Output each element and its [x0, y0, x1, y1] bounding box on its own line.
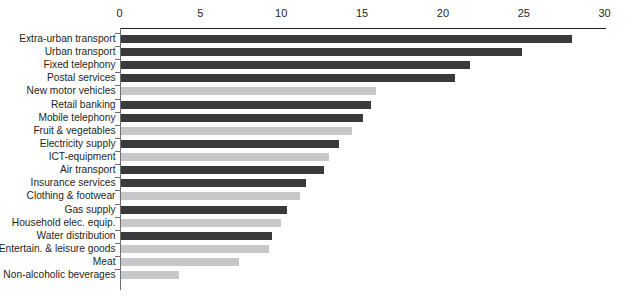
- x-axis-tick-label: 20: [437, 7, 449, 19]
- category-label: Postal services: [47, 72, 116, 83]
- x-axis-tick-label: 5: [197, 7, 203, 19]
- axis-tick-mark: [115, 125, 120, 126]
- bar: [121, 232, 273, 240]
- axis-tick-mark: [115, 72, 120, 73]
- bar-row: Meat: [0, 256, 633, 269]
- category-label: Water distribution: [37, 230, 116, 241]
- x-axis-tick-labels: 051015202530: [0, 0, 633, 28]
- bar: [121, 258, 239, 266]
- bar-row: Air transport: [0, 164, 633, 177]
- bar: [121, 179, 307, 187]
- axis-tick-mark: [115, 138, 120, 139]
- x-axis-tick-label: 15: [356, 7, 368, 19]
- bar-row: Gas supply: [0, 204, 633, 217]
- bar-row: Postal services: [0, 72, 633, 85]
- bar: [121, 166, 325, 174]
- axis-tick-mark: [115, 59, 120, 60]
- bar-row: Extra-urban transport: [0, 33, 633, 46]
- x-axis-tick-label: 30: [598, 7, 610, 19]
- category-label: Insurance services: [31, 177, 116, 188]
- axis-tick-mark: [115, 269, 120, 270]
- bar: [121, 127, 352, 135]
- axis-tick-mark: [115, 85, 120, 86]
- bar-row: Entertain. & leisure goods: [0, 243, 633, 256]
- category-label: Entertain. & leisure goods: [0, 243, 116, 254]
- bar-row: Retail banking: [0, 99, 633, 112]
- bar: [121, 192, 300, 200]
- bar-row: Urban transport: [0, 46, 633, 59]
- category-label: Fixed telephony: [44, 59, 116, 70]
- axis-tick-mark: [115, 33, 120, 34]
- bar: [121, 206, 288, 214]
- category-label: Household elec. equip.: [12, 217, 116, 228]
- bar: [121, 35, 572, 43]
- bar-row: Non-alcoholic beverages: [0, 269, 633, 282]
- bar-row: New motor vehicles: [0, 85, 633, 98]
- axis-top-rule: [120, 28, 606, 29]
- category-label: Retail banking: [51, 99, 116, 110]
- bar-row: Electricity supply: [0, 138, 633, 151]
- category-label: Non-alcoholic beverages: [3, 269, 115, 280]
- axis-tick-mark: [115, 217, 120, 218]
- bar-row: Insurance services: [0, 177, 633, 190]
- category-label: Urban transport: [45, 46, 116, 57]
- bar-row: Water distribution: [0, 230, 633, 243]
- bar: [121, 48, 522, 56]
- category-label: Extra-urban transport: [19, 33, 115, 44]
- x-axis-tick-label: 10: [275, 7, 287, 19]
- axis-tick-mark: [115, 151, 120, 152]
- category-label: Mobile telephony: [38, 112, 115, 123]
- bar: [121, 61, 470, 69]
- category-label: Electricity supply: [40, 138, 116, 149]
- axis-tick-mark: [115, 190, 120, 191]
- x-axis-tick-label: 0: [116, 7, 122, 19]
- axis-tick-mark: [115, 99, 120, 100]
- bar: [121, 245, 270, 253]
- category-label: Meat: [93, 256, 116, 267]
- bar: [121, 87, 376, 95]
- axis-tick-mark: [115, 112, 120, 113]
- bar: [121, 140, 339, 148]
- axis-tick-mark: [115, 204, 120, 205]
- category-label: New motor vehicles: [27, 85, 116, 96]
- bar-row: Mobile telephony: [0, 112, 633, 125]
- bar: [121, 271, 179, 279]
- bar: [121, 114, 364, 122]
- bar: [121, 74, 456, 82]
- bar: [121, 101, 372, 109]
- axis-tick-mark: [115, 256, 120, 257]
- category-label: ICT-equipment: [49, 151, 116, 162]
- bar: [121, 153, 330, 161]
- category-label: Fruit & vegetables: [33, 125, 115, 136]
- bar-row: Fixed telephony: [0, 59, 633, 72]
- axis-tick-mark: [115, 230, 120, 231]
- bar-chart: 051015202530 Extra-urban transportUrban …: [0, 0, 633, 308]
- bar-row: ICT-equipment: [0, 151, 633, 164]
- bar-row: Fruit & vegetables: [0, 125, 633, 138]
- bar-row: Clothing & footwear: [0, 190, 633, 203]
- axis-tick-mark: [115, 46, 120, 47]
- x-axis-tick-label: 25: [518, 7, 530, 19]
- axis-tick-mark: [115, 177, 120, 178]
- bar: [121, 219, 281, 227]
- bar-row: Household elec. equip.: [0, 217, 633, 230]
- axis-tick-mark: [115, 164, 120, 165]
- category-label: Clothing & footwear: [27, 190, 116, 201]
- category-label: Air transport: [60, 164, 115, 175]
- axis-tick-mark: [115, 243, 120, 244]
- category-label: Gas supply: [65, 204, 116, 215]
